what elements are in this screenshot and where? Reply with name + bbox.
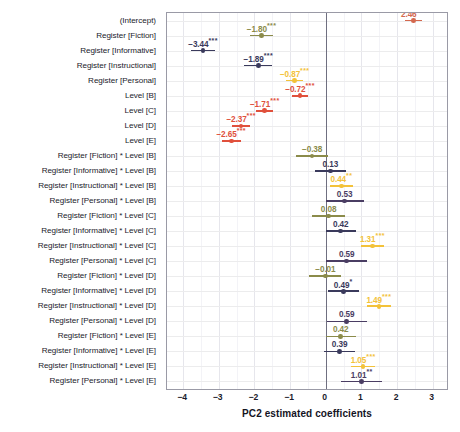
significance-stars: *** <box>247 112 256 119</box>
gridline-horizontal-20 <box>167 321 447 322</box>
term-label: Register [Informative] <box>80 45 156 54</box>
term-label: Register [Informative] * Level [B] <box>42 165 156 174</box>
estimate-value-label: 0.44** <box>331 172 353 184</box>
gridline-horizontal-11 <box>167 186 447 187</box>
x-axis-title: PC2 estimated coefficients <box>166 408 448 419</box>
estimate-point <box>337 349 342 354</box>
term-label: Register [Personal] * Level [E] <box>50 376 156 385</box>
estimate-point <box>344 319 349 324</box>
significance-stars: *** <box>267 22 276 29</box>
term-label: Register [Fiction] * Level [E] <box>58 331 156 340</box>
significance-stars: * <box>349 278 352 285</box>
significance-stars: *** <box>264 52 273 59</box>
estimate-point <box>298 93 303 98</box>
term-label: Register [Personal] <box>88 75 156 84</box>
term-label: Register [Fiction] <box>96 30 156 39</box>
gridline-horizontal-8 <box>167 141 447 142</box>
estimate-value-label: −0.38 <box>302 145 322 154</box>
estimate-value-label: −1.71*** <box>250 97 280 109</box>
gridline-horizontal-15 <box>167 246 447 247</box>
estimate-point <box>411 18 416 23</box>
term-label: Register [Informative] * Level [C] <box>41 226 156 235</box>
estimate-point <box>326 214 331 219</box>
significance-stars: ** <box>366 368 372 375</box>
estimate-point <box>341 289 346 294</box>
term-label: Level [D] <box>125 120 157 129</box>
estimate-value-label: 0.08 <box>321 205 337 214</box>
gridline-horizontal-7 <box>167 126 447 127</box>
term-label: Level [B] <box>125 90 156 99</box>
term-label: Register [Instructional] * Level [D] <box>38 301 156 310</box>
estimate-point <box>259 33 264 38</box>
estimate-value-label: −0.72*** <box>285 82 315 94</box>
term-label: Register [Instructional] <box>77 60 156 69</box>
estimate-value-label: −1.80*** <box>247 22 277 34</box>
gridline-horizontal-17 <box>167 276 447 277</box>
estimate-value-label: 0.13 <box>323 160 339 169</box>
significance-stars: *** <box>208 37 217 44</box>
term-label: Register [Informative] * Level [D] <box>41 286 156 295</box>
estimate-value-label: 0.39 <box>332 340 348 349</box>
x-axis-tick-labels: −4−3−2−10123 <box>166 390 448 408</box>
estimate-value-label: 1.31*** <box>360 232 385 244</box>
term-label: Register [Fiction] * Level [B] <box>58 150 156 159</box>
term-label: Register [Fiction] * Level [D] <box>57 271 156 280</box>
term-label: Register [Instructional] * Level [B] <box>38 180 156 189</box>
x-tick-label: 0 <box>322 392 327 402</box>
significance-stars: *** <box>376 232 385 239</box>
term-label: Register [Informative] * Level [E] <box>42 346 156 355</box>
estimate-value-label: 0.53 <box>337 190 353 199</box>
x-tick-label: −1 <box>284 392 294 402</box>
significance-stars: ** <box>346 172 352 179</box>
estimate-value-label: −2.65*** <box>216 127 246 139</box>
x-tick-label: 2 <box>394 392 399 402</box>
gridline-horizontal-14 <box>167 231 447 232</box>
estimate-value-label: 2.46*** <box>401 12 426 19</box>
estimate-point <box>339 184 344 189</box>
gridline-horizontal-18 <box>167 291 447 292</box>
x-tick-label: 1 <box>358 392 363 402</box>
estimate-point <box>342 199 347 204</box>
term-label: Register [Instructional] * Level [E] <box>38 361 156 370</box>
term-label: Register [Personal] * Level [C] <box>49 256 156 265</box>
term-label: Register [Personal] * Level [D] <box>49 316 156 325</box>
estimate-point <box>201 48 206 53</box>
estimate-point <box>338 229 343 234</box>
term-label: Register [Fiction] * Level [C] <box>57 211 156 220</box>
estimate-point <box>310 154 315 159</box>
estimate-value-label: −1.89*** <box>244 52 274 64</box>
term-label: (Intercept) <box>120 15 156 24</box>
significance-stars: *** <box>270 97 279 104</box>
significance-stars: *** <box>382 293 391 300</box>
estimate-point <box>344 259 349 264</box>
x-tick-label: −2 <box>248 392 258 402</box>
significance-stars: *** <box>300 67 309 74</box>
gridline-horizontal-6 <box>167 111 447 112</box>
estimate-point <box>359 379 364 384</box>
term-label: Register [Instructional] * Level [C] <box>38 241 156 250</box>
estimate-point <box>370 244 375 249</box>
estimate-point <box>256 63 261 68</box>
estimate-value-label: 1.05*** <box>351 353 376 365</box>
x-tick-label: −4 <box>177 392 187 402</box>
gridline-horizontal-23 <box>167 366 447 367</box>
significance-stars: *** <box>417 12 426 14</box>
gridline-horizontal-10 <box>167 171 447 172</box>
gridline-horizontal-22 <box>167 351 447 352</box>
estimate-value-label: 0.59 <box>339 310 355 319</box>
estimate-value-label: −0.01 <box>315 265 335 274</box>
estimate-value-label: −0.87*** <box>280 67 310 79</box>
estimate-value-label: 0.49* <box>334 278 353 290</box>
gridline-horizontal-21 <box>167 336 447 337</box>
estimate-point <box>262 108 267 113</box>
gridline-horizontal-12 <box>167 201 447 202</box>
x-tick-label: 3 <box>429 392 434 402</box>
significance-stars: *** <box>366 353 375 360</box>
gridline-horizontal-13 <box>167 216 447 217</box>
term-label: Register [Personal] * Level [B] <box>50 196 156 205</box>
estimate-value-label: 0.42 <box>333 325 349 334</box>
x-tick-label: −3 <box>213 392 223 402</box>
gridline-horizontal-24 <box>167 381 447 382</box>
gridline-horizontal-16 <box>167 261 447 262</box>
estimate-point <box>323 274 328 279</box>
